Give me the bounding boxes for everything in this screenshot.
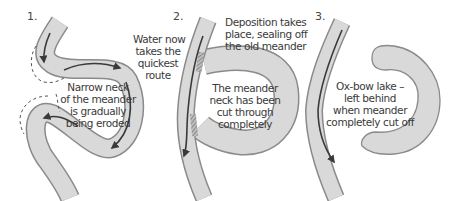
stage-3-number: 3. xyxy=(315,10,326,23)
label-water-quickest-route: Water now takes the quickest route xyxy=(133,33,183,81)
stage-1-number: 1. xyxy=(27,10,38,23)
ox-bow-lake-diagram: 1. 2. 3. Narrow neck of the meander is g… xyxy=(0,0,451,201)
label-neck-cut-through: The meander neck has been cut through co… xyxy=(205,82,285,130)
stage-2-number: 2. xyxy=(173,10,184,23)
label-narrow-neck: Narrow neck of the meander is gradually … xyxy=(58,81,138,129)
label-ox-bow-lake: Ox-bow lake – left behind when meander c… xyxy=(325,80,415,128)
label-deposition: Deposition takes place, sealing off the … xyxy=(225,16,305,52)
